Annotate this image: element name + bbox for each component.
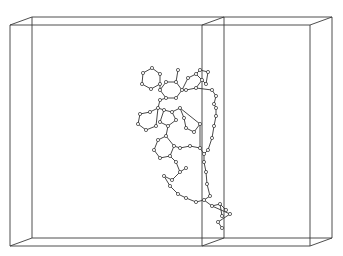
box-depth-edge [10,238,32,246]
bond [182,78,188,90]
atom [158,82,161,85]
atom [174,96,177,99]
atom [156,138,159,141]
atom [194,72,197,75]
atom [202,152,205,155]
simulation-scene [0,0,343,256]
bond [196,88,212,90]
atom [204,82,207,85]
atom [138,112,141,115]
atom [210,204,213,207]
atom [198,122,201,125]
atom [170,110,173,113]
atom [154,124,157,127]
atom [212,102,215,105]
molecule-bonds [138,68,230,228]
atom [194,200,197,203]
atom [180,88,183,91]
atom [178,106,181,109]
atom [214,94,217,97]
atom [214,106,217,109]
atom [218,202,221,205]
atom [184,166,187,169]
atom [156,106,159,109]
atom [214,114,217,117]
atom [152,148,155,151]
atom [210,136,213,139]
box-depth-edge [310,17,332,25]
atom [206,148,209,151]
atom [206,70,209,73]
atom [184,126,187,129]
simulation-box-wireframe [10,17,332,246]
atom [194,86,197,89]
atom [192,130,195,133]
atom [220,214,223,217]
atom [178,170,181,173]
atom [164,134,167,137]
box-depth-edge [10,17,32,25]
atom [170,178,173,181]
atom [136,122,139,125]
atom [162,108,165,111]
atom [158,88,161,91]
atom [208,194,211,197]
box-depth-edge [202,238,224,246]
atom [140,82,143,85]
atom [164,80,167,83]
atom [150,66,153,69]
atom [149,87,152,90]
atom [188,144,191,147]
atom [184,196,187,199]
atom [174,80,177,83]
bond [156,108,158,126]
atom [176,192,179,195]
atom [184,88,187,91]
atom [200,78,203,81]
atom [198,146,201,149]
atom [164,96,167,99]
atom [176,68,179,71]
atom [148,110,151,113]
atom [220,226,223,229]
atom [168,154,171,157]
atom [144,128,147,131]
atom [202,160,205,163]
atom [228,212,231,215]
atom [158,98,161,101]
atom [210,88,213,91]
atom [198,68,201,71]
atom [178,146,181,149]
atom [141,71,144,74]
atom [204,170,207,173]
molecular-viewer-canvas [0,0,343,256]
atom [158,156,161,159]
atom [168,184,171,187]
atom [158,72,161,75]
box-depth-edge [202,17,224,25]
atom [186,76,189,79]
atom [172,144,175,147]
atom [166,124,169,127]
atom [216,220,219,223]
atom [174,118,177,121]
atom [202,198,205,201]
atom [174,160,177,163]
atom [224,208,227,211]
atom [162,174,165,177]
atom [158,120,161,123]
atom [212,124,215,127]
atom [205,182,208,185]
box-depth-edge [310,238,332,246]
atom [182,116,185,119]
